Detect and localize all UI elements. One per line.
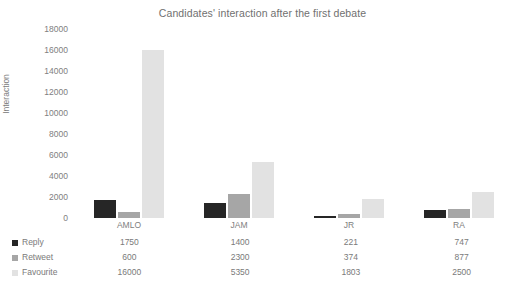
legend-swatch-icon: [12, 255, 18, 261]
table-cell-favourite-amlo: 16000: [74, 265, 185, 280]
bar-retweet-ra[interactable]: [448, 209, 470, 218]
y-axis-tick-10000: 10000: [20, 109, 68, 118]
table-cell-reply-amlo: 1750: [74, 235, 185, 250]
bar-reply-jr[interactable]: [314, 216, 336, 218]
table-cell-favourite-ra: 2500: [406, 265, 517, 280]
bar-retweet-amlo[interactable]: [118, 212, 140, 218]
legend-item-reply[interactable]: Reply: [12, 235, 74, 250]
legend-item-favourite[interactable]: Favourite: [12, 265, 74, 280]
x-axis-category-labels: AMLOJAMJRRA: [74, 220, 514, 234]
table-row: Favourite16000535018032500: [12, 265, 517, 280]
bar-chart: Candidates' interaction after the first …: [0, 0, 525, 295]
legend-label: Favourite: [22, 268, 57, 277]
legend-label: Reply: [22, 238, 44, 247]
table-row: Retweet6002300374877: [12, 250, 517, 265]
bar-favourite-jam[interactable]: [252, 162, 274, 218]
bar-group-amlo: [74, 29, 184, 218]
y-axis-tick-6000: 6000: [20, 151, 68, 160]
table-cell-retweet-jr: 374: [296, 250, 407, 265]
plot-area: [74, 29, 514, 218]
bars-row: [184, 29, 294, 218]
bars-row: [74, 29, 184, 218]
table-cell-retweet-ra: 877: [406, 250, 517, 265]
table-cell-retweet-jam: 2300: [185, 250, 296, 265]
y-axis-title-label: Interaction: [1, 32, 11, 156]
table-cell-reply-ra: 747: [406, 235, 517, 250]
legend-item-retweet[interactable]: Retweet: [12, 250, 74, 265]
bar-group-jr: [294, 29, 404, 218]
y-axis-tick-4000: 4000: [20, 172, 68, 181]
category-label-amlo: AMLO: [74, 220, 184, 230]
y-axis-tick-2000: 2000: [20, 193, 68, 202]
bars-row: [404, 29, 514, 218]
bar-favourite-jr[interactable]: [362, 199, 384, 218]
table-cell-favourite-jam: 5350: [185, 265, 296, 280]
bar-reply-ra[interactable]: [424, 210, 446, 218]
bar-favourite-amlo[interactable]: [142, 50, 164, 218]
legend-swatch-icon: [12, 240, 18, 246]
category-label-jam: JAM: [184, 220, 294, 230]
chart-title: Candidates' interaction after the first …: [0, 7, 525, 19]
category-label-ra: RA: [404, 220, 514, 230]
y-axis-tick-18000: 18000: [20, 25, 68, 34]
bar-group-jam: [184, 29, 294, 218]
bar-group-ra: [404, 29, 514, 218]
y-axis-tick-12000: 12000: [20, 88, 68, 97]
bar-reply-amlo[interactable]: [94, 200, 116, 218]
table-row: Reply17501400221747: [12, 235, 517, 250]
bar-retweet-jr[interactable]: [338, 214, 360, 218]
y-axis-tick-8000: 8000: [20, 130, 68, 139]
bars-row: [294, 29, 404, 218]
y-axis-tick-labels: 1800016000140001200010000800060004000200…: [20, 29, 68, 218]
category-label-jr: JR: [294, 220, 404, 230]
table-cell-reply-jam: 1400: [185, 235, 296, 250]
y-axis-tick-16000: 16000: [20, 46, 68, 55]
bar-reply-jam[interactable]: [204, 203, 226, 218]
legend-swatch-icon: [12, 270, 18, 276]
bar-favourite-ra[interactable]: [472, 192, 494, 218]
y-axis-tick-0: 0: [20, 214, 68, 223]
legend-label: Retweet: [22, 253, 53, 262]
y-axis-tick-14000: 14000: [20, 67, 68, 76]
table-cell-reply-jr: 221: [296, 235, 407, 250]
chart-data-table: Reply17501400221747Retweet6002300374877F…: [12, 235, 517, 285]
table-cell-favourite-jr: 1803: [296, 265, 407, 280]
bar-retweet-jam[interactable]: [228, 194, 250, 218]
table-cell-retweet-amlo: 600: [74, 250, 185, 265]
